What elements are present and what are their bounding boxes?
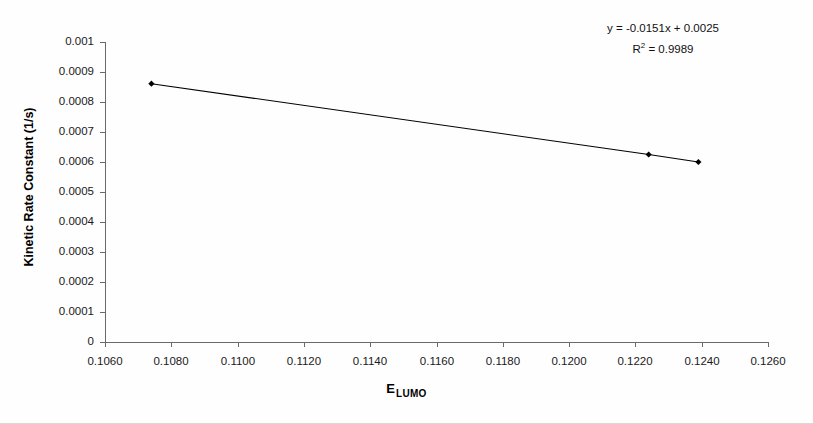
series-trendline	[151, 84, 698, 162]
y-axis-tick	[100, 132, 105, 133]
y-axis-tick-label-wrap: 0.0003	[0, 246, 94, 258]
y-axis-tick	[100, 102, 105, 103]
series-group	[148, 81, 701, 166]
y-axis-tick-label: 0.0002	[59, 276, 94, 288]
y-axis-tick-label-wrap: 0	[0, 336, 94, 348]
y-axis-tick-label: 0.0007	[59, 126, 94, 138]
x-axis-tick	[768, 342, 769, 347]
y-axis-tick-label-wrap: 0.0002	[0, 276, 94, 288]
trendline-equation: y = -0.0151x + 0.0025	[568, 20, 758, 37]
regression-annotation: y = -0.0151x + 0.0025 R2 = 0.9989	[568, 20, 758, 58]
x-axis-title: ELUMO	[0, 381, 813, 399]
r-squared-value: = 0.9989	[645, 43, 693, 55]
y-axis-tick-label: 0	[88, 336, 94, 348]
y-axis-tick-label-wrap: 0.0009	[0, 66, 94, 78]
x-axis-tick	[238, 342, 239, 347]
r-squared-prefix: R	[632, 43, 640, 55]
r-squared-line: R2 = 0.9989	[568, 37, 758, 58]
y-axis-tick-label: 0.0009	[59, 66, 94, 78]
data-point-marker	[695, 159, 701, 165]
x-axis-tick	[105, 342, 106, 347]
y-axis-tick-label-wrap: 0.0007	[0, 126, 94, 138]
y-axis-tick-label-wrap: 0.0006	[0, 156, 94, 168]
y-axis-line	[105, 42, 106, 343]
x-axis-tick	[569, 342, 570, 347]
data-point-marker	[148, 81, 154, 87]
x-axis-tick-label-wrap: 0.1260	[728, 355, 808, 369]
data-point-marker	[646, 151, 652, 157]
y-axis-tick	[100, 162, 105, 163]
y-axis-tick	[100, 42, 105, 43]
y-axis-tick-label-wrap: 0.001	[0, 36, 94, 48]
y-axis-tick-label: 0.0001	[59, 306, 94, 318]
y-axis-tick	[100, 192, 105, 193]
y-axis-tick-label: 0.0008	[59, 96, 94, 108]
x-axis-tick	[171, 342, 172, 347]
x-axis-tick	[437, 342, 438, 347]
x-axis-tick-label: 0.1260	[728, 355, 808, 368]
y-axis-tick-label-wrap: 0.0005	[0, 186, 94, 198]
y-axis-tick	[100, 282, 105, 283]
x-axis-tick	[503, 342, 504, 347]
chart-figure: Kinetic Rate Constant (1/s) 0.0010.00090…	[0, 0, 813, 424]
x-axis-tick	[702, 342, 703, 347]
y-axis-tick-label-wrap: 0.0008	[0, 96, 94, 108]
y-axis-tick-label: 0.0004	[59, 216, 94, 228]
y-axis-tick-label: 0.001	[65, 36, 94, 48]
y-axis-tick-label: 0.0006	[59, 156, 94, 168]
x-axis-tick	[635, 342, 636, 347]
y-axis-tick-label-wrap: 0.0004	[0, 216, 94, 228]
x-axis-tick	[304, 342, 305, 347]
y-axis-tick	[100, 252, 105, 253]
y-axis-tick	[100, 312, 105, 313]
x-axis-tick	[370, 342, 371, 347]
y-axis-tick	[100, 222, 105, 223]
y-axis-tick-label: 0.0005	[59, 186, 94, 198]
y-axis-tick	[100, 72, 105, 73]
y-axis-tick-label-wrap: 0.0001	[0, 306, 94, 318]
x-axis-title-subscript: LUMO	[396, 388, 427, 399]
y-axis-tick-label: 0.0003	[59, 246, 94, 258]
x-axis-title-main: E	[386, 381, 395, 396]
